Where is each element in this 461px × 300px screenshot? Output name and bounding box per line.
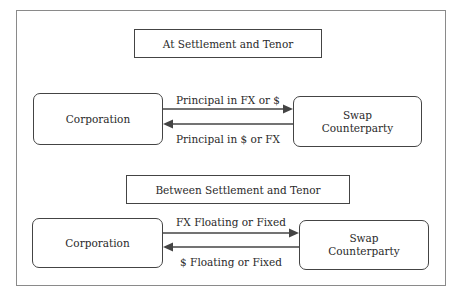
corporation-node: Corporation (32, 218, 163, 268)
section-title-at-settlement: At Settlement and Tenor (134, 29, 322, 58)
arrow-label-principal-usd-or-fx: Principal in $ or FX (163, 133, 293, 145)
corporation-label: Corporation (65, 237, 129, 250)
section-title-between-settlement: Between Settlement and Tenor (126, 175, 350, 204)
arrow-label-fx-floating-or-fixed: FX Floating or Fixed (163, 216, 299, 228)
swap-counterparty-node: Swap Counterparty (293, 96, 422, 147)
corporation-label: Corporation (66, 113, 130, 126)
arrow-label-usd-floating-or-fixed: $ Floating or Fixed (163, 256, 299, 268)
section-title-text: Between Settlement and Tenor (155, 184, 320, 196)
corporation-node: Corporation (33, 93, 163, 145)
section-title-text: At Settlement and Tenor (163, 38, 293, 50)
swap-counterparty-label: Swap Counterparty (322, 109, 394, 135)
swap-counterparty-label: Swap Counterparty (328, 232, 400, 258)
arrow-label-principal-fx-or-usd: Principal in FX or $ (163, 94, 293, 106)
swap-counterparty-node: Swap Counterparty (299, 220, 429, 270)
